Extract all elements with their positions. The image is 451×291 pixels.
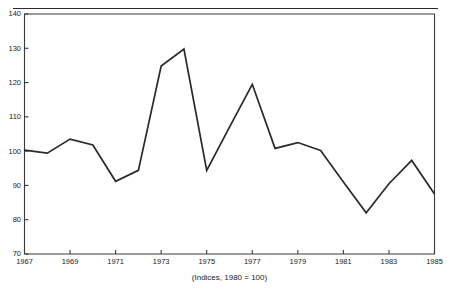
chart-figure: 7080901001101201301401967196919711973197… — [0, 0, 451, 291]
x-axis-tick-label: 1967 — [16, 257, 33, 266]
x-axis-tick-label: 1971 — [107, 257, 124, 266]
x-axis-tick-label: 1981 — [335, 257, 352, 266]
x-axis-tick-label: 1983 — [381, 257, 398, 266]
x-axis-tick-label: 1969 — [62, 257, 79, 266]
x-axis-tick-label: 1979 — [289, 257, 306, 266]
x-axis-tick-label: 1973 — [153, 257, 170, 266]
y-axis-tick-label: 120 — [8, 78, 21, 87]
axis-frame — [25, 14, 435, 254]
x-axis-tick-label: 1977 — [244, 257, 261, 266]
y-axis-tick-label: 110 — [9, 112, 21, 121]
x-axis-tick-label: 1985 — [426, 257, 443, 266]
y-axis-tick-label: 80 — [13, 215, 21, 224]
data-series-line — [25, 49, 435, 213]
y-axis-tick-label: 130 — [8, 44, 21, 53]
y-axis-tick-label: 90 — [13, 181, 21, 190]
line-chart-plot: 7080901001101201301401967196919711973197… — [0, 0, 451, 291]
y-axis-tick-label: 140 — [8, 9, 21, 18]
chart-caption: (Indices, 1980 = 100) — [192, 273, 268, 282]
y-axis-tick-label: 100 — [8, 147, 21, 156]
x-axis-tick-label: 1975 — [198, 257, 215, 266]
